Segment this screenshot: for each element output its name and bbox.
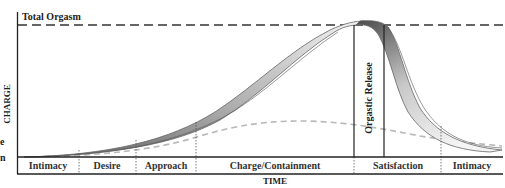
y-axis-title: CHARGE (2, 84, 12, 124)
phase-label-charge-containment: Charge/Containment (230, 160, 321, 171)
total-orgasm-label: Total Orgasm (22, 11, 81, 22)
phase-label-desire: Desire (93, 160, 121, 171)
orgastic-release-label: Orgastic Release (363, 62, 374, 134)
cropped-text-fragment: e (0, 136, 5, 147)
x-axis-title: TIME (263, 176, 287, 186)
phase-label-intimacy: Intimacy (29, 160, 67, 171)
phase-label-intimacy-end: Intimacy (453, 160, 491, 171)
falling-release-band (356, 21, 502, 152)
rising-band-edge (30, 32, 338, 157)
phase-label-approach: Approach (145, 160, 188, 171)
rising-charge-band (24, 21, 365, 157)
phase-label-satisfaction: Satisfaction (373, 160, 423, 171)
cropped-text-fragment: n (0, 152, 6, 163)
charge-time-diagram: e n Total Orgasm CHARGE Orgastic Release… (0, 0, 505, 188)
